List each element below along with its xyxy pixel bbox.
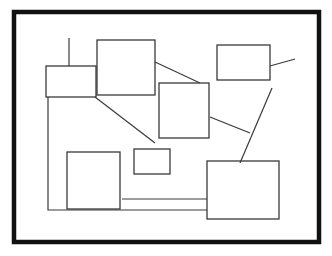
box-bottom-left[interactable] [67, 152, 120, 209]
diagram-canvas [0, 0, 332, 256]
box-bottom-right[interactable] [207, 161, 279, 219]
box-left-small[interactable] [46, 66, 96, 97]
box-middle-center[interactable] [159, 83, 209, 138]
box-bottom-small[interactable] [134, 149, 170, 174]
box-top-center[interactable] [97, 40, 155, 95]
diagram-svg [0, 0, 332, 256]
box-top-right[interactable] [217, 45, 270, 80]
